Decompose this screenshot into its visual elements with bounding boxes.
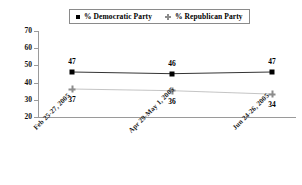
x-axis-line: [38, 117, 296, 118]
y-tick-mark: [34, 83, 38, 84]
y-axis-labels: 70 60 50 40 30 20: [8, 0, 32, 185]
x-tick-label: Jun 24-26, 2005: [231, 92, 271, 132]
y-tick-mark: [34, 117, 38, 118]
legend-item-democratic: % Democratic Party: [76, 12, 152, 21]
legend-label-republican: % Republican Party: [175, 12, 243, 21]
data-label-republican: 34: [268, 101, 276, 109]
chart-legend: % Democratic Party % Republican Party: [69, 9, 250, 24]
series-lines: [0, 0, 302, 185]
data-label-republican: 36: [168, 98, 176, 106]
data-label-democratic: 47: [68, 58, 76, 66]
x-tick-label: Apr 29-May 1, 2005: [127, 86, 176, 135]
y-tick-mark: [34, 31, 38, 32]
data-point-democratic: [270, 70, 275, 75]
star-marker-icon: [165, 14, 171, 20]
y-tick-label: 70: [10, 27, 32, 35]
y-tick-mark: [34, 48, 38, 49]
data-point-republican: [69, 86, 76, 93]
y-tick-label: 40: [10, 79, 32, 87]
y-tick-label: 50: [10, 61, 32, 69]
line-chart: % Democratic Party % Republican Party 70…: [0, 0, 302, 185]
square-marker-icon: [76, 15, 80, 19]
legend-item-republican: % Republican Party: [165, 12, 243, 21]
data-label-democratic: 46: [168, 60, 176, 68]
data-point-democratic: [170, 71, 175, 76]
y-axis-line: [38, 31, 39, 118]
y-tick-label: 20: [10, 113, 32, 121]
y-tick-label: 60: [10, 44, 32, 52]
data-point-democratic: [70, 70, 75, 75]
y-tick-mark: [34, 65, 38, 66]
y-tick-label: 30: [10, 96, 32, 104]
data-label-democratic: 47: [268, 58, 276, 66]
y-tick-mark: [34, 100, 38, 101]
legend-label-democratic: % Democratic Party: [84, 12, 152, 21]
